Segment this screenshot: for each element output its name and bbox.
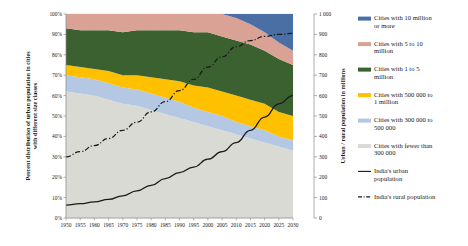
x-tick-label: 2015 [245,222,256,228]
y2-axis-title-text: Urban / rural population in millions [339,68,346,164]
y2-tick-label: 400 [319,133,327,139]
y-tick-label: 10% [52,195,62,201]
x-tick-label: 2025 [273,222,284,228]
legend-swatch [358,68,371,72]
x-tick-label: 2030 [288,222,299,228]
legend-swatch [358,144,371,148]
y-tick-label: 40% [52,133,62,139]
x-tick-label: 1965 [103,222,114,228]
y2-tick-label: 100 [319,195,327,201]
y-tick-label: 20% [52,174,62,180]
legend-label: India's rural population [374,193,436,200]
y-axis-title-text: Percent distribution of urban population… [24,51,31,181]
legend-swatch [358,17,371,21]
y2-axis-title: Urban / rural population in millions [339,68,346,164]
y-tick-label: 0% [55,215,63,221]
legend-swatch [358,42,371,46]
stacked-area-chart: 0%10%20%30%40%50%60%70%80%90%100% 010020… [0,0,468,246]
x-tick-label: 1985 [160,222,171,228]
legend-label: Cities with fewer than [374,142,433,149]
y2-tick-label: 800 [319,52,327,58]
legend-swatch [358,93,371,97]
x-tick-label: 1990 [174,222,185,228]
x-tick-label: 1955 [75,222,86,228]
legend-label-line2: 300 000 [374,149,396,156]
y-tick-label: 80% [52,52,62,58]
legend-label-line2: million [374,73,394,80]
y2-tick-label: 0 [319,215,322,221]
y2-tick-label: 200 [319,174,327,180]
y-tick-label: 70% [52,72,62,78]
x-tick-label: 1960 [89,222,100,228]
x-tick-label: 2005 [217,222,228,228]
x-tick-label: 2000 [202,222,213,228]
legend-label: Cities with 300 000 to [374,116,433,123]
legend-label-line2: 500 000 [374,124,396,131]
legend-label-line2: or more [374,22,395,29]
chart-container: 0%10%20%30%40%50%60%70%80%90%100% 010020… [0,0,468,246]
y-tick-label: 50% [52,113,62,119]
y-tick-label: 60% [52,93,62,99]
x-tick-label: 1950 [61,222,72,228]
legend-label: Cities with 500 000 to [374,91,433,98]
y2-tick-label: 600 [319,93,327,99]
legend-label-line2: million [374,47,394,54]
x-tick-label: 2010 [231,222,242,228]
x-tick-label: 1980 [146,222,157,228]
x-tick-label: 1970 [117,222,128,228]
legend-label: Cities with 1 to 5 [374,65,420,72]
y-tick-label: 90% [52,31,62,37]
legend-label: Cities with 10 million [374,14,432,21]
y-axis-title-text: with different size classes [31,82,38,149]
y2-tick-label: 300 [319,154,327,160]
legend-swatch [358,119,371,123]
y-tick-label: 100% [49,11,62,17]
y2-tick-label: 700 [319,72,327,78]
legend-label: Cities with 5 to 10 [374,40,423,47]
x-tick-label: 2020 [259,222,270,228]
legend-label: India's urban [374,167,409,174]
legend-label-line2: population [374,175,403,182]
y2-tick-label: 1 000 [319,11,331,17]
x-tick-label: 1975 [132,222,143,228]
y-tick-label: 30% [52,154,62,160]
y2-tick-label: 500 [319,113,327,119]
y2-tick-label: 900 [319,31,327,37]
x-tick-label: 1995 [188,222,199,228]
legend-label-line2: 1 million [374,98,399,105]
area-series-group [66,14,293,218]
